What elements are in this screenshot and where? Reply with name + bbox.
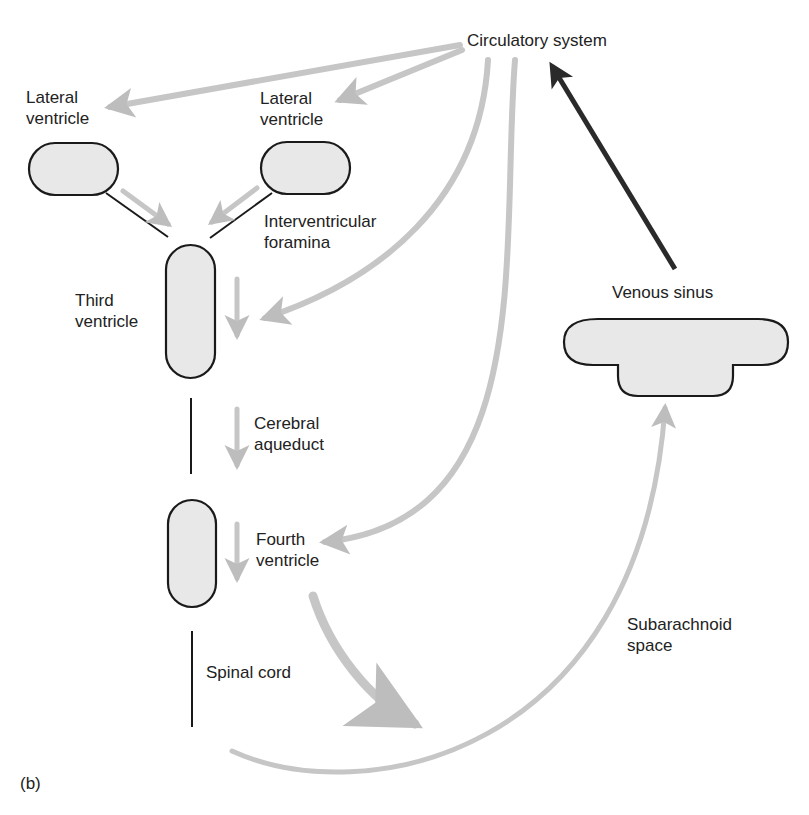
lateral-ventricle-left-shape bbox=[29, 143, 118, 195]
arrow-venous-sinus-to-circ bbox=[552, 66, 675, 269]
venous-sinus-shape bbox=[564, 319, 788, 396]
label-venous-sinus: Venous sinus bbox=[612, 282, 713, 303]
third-ventricle-shape bbox=[166, 245, 215, 378]
csf-flow-diagram bbox=[0, 0, 809, 815]
fourth-ventricle-shape bbox=[168, 500, 216, 607]
label-interventricular-foramina: Interventricular foramina bbox=[264, 211, 376, 253]
label-cerebral-aqueduct: Cerebral aqueduct bbox=[254, 413, 324, 455]
arrow-fourth-to-subarachnoid bbox=[313, 596, 415, 724]
label-lateral-ventricle-left: Lateral ventricle bbox=[26, 87, 89, 129]
arrow-subarachnoid-to-venous-sinus bbox=[232, 408, 665, 772]
label-circulatory-system: Circulatory system bbox=[467, 30, 607, 51]
lateral-ventricle-right-shape bbox=[261, 142, 350, 194]
arrow-lateral-right-to-third bbox=[212, 188, 257, 222]
label-lateral-ventricle-right: Lateral ventricle bbox=[260, 88, 323, 130]
label-subarachnoid-space: Subarachnoid space bbox=[627, 614, 732, 656]
label-third-ventricle: Third ventricle bbox=[75, 290, 138, 332]
arrow-lateral-left-to-third bbox=[123, 191, 168, 224]
label-spinal-cord: Spinal cord bbox=[206, 662, 291, 683]
arrow-circ-to-fourth bbox=[325, 60, 515, 542]
panel-label: (b) bbox=[20, 773, 41, 794]
label-fourth-ventricle: Fourth ventricle bbox=[256, 529, 319, 571]
